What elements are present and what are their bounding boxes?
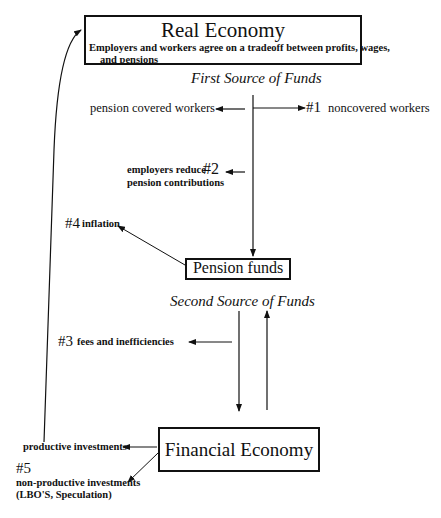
noncovered-number: #1	[306, 99, 321, 116]
fees-label: fees and inefficiencies	[77, 336, 174, 347]
fees-number: #3	[58, 333, 73, 350]
inflation-label: inflation	[82, 218, 120, 229]
real-economy-desc-line2: and pensions	[100, 54, 158, 65]
pension-funds-box: Pension funds	[185, 258, 291, 280]
financial-economy-box: Financial Economy	[158, 427, 320, 472]
employers-reduce-line1: employers reduce	[127, 164, 206, 175]
inflation-number: #4	[65, 215, 80, 232]
productive-investments-label: productive investments	[23, 441, 127, 452]
noncovered-workers-label: noncovered workers	[328, 101, 430, 116]
nonproductive-number: #5	[16, 460, 31, 477]
nonproductive-line2: (LBO'S, Speculation)	[16, 489, 112, 500]
real-economy-desc-line1: Employers and workers agree on a tradeof…	[89, 42, 390, 53]
pension-covered-workers-label: pension covered workers	[90, 101, 215, 116]
first-source-label: First Source of Funds	[191, 70, 322, 87]
nonproductive-line1: non-productive investments	[16, 477, 140, 488]
employers-reduce-number: #2	[203, 160, 219, 178]
employers-reduce-line2: pension contributions	[127, 177, 224, 188]
real-economy-box: Real Economy Employers and workers agree…	[84, 15, 362, 65]
financial-economy-title: Financial Economy	[160, 439, 318, 461]
real-economy-title: Real Economy	[86, 18, 360, 43]
pension-funds-title: Pension funds	[187, 259, 289, 277]
second-source-label: Second Source of Funds	[170, 293, 315, 310]
